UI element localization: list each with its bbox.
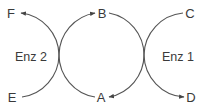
enzyme-label-enz2: Enz 2: [15, 51, 47, 64]
arc-a-to-b: [59, 13, 95, 97]
node-label-f: F: [7, 7, 15, 20]
arc-b-to-a: [109, 13, 144, 97]
reaction-cycle-diagram: F B C E A D Enz 2 Enz 1: [0, 0, 204, 106]
node-label-c: C: [185, 7, 194, 20]
node-label-e: E: [8, 91, 17, 104]
enzyme-label-enz1: Enz 1: [162, 51, 194, 64]
node-label-b: B: [98, 7, 107, 20]
node-label-a: A: [97, 91, 106, 104]
node-label-d: D: [186, 91, 195, 104]
